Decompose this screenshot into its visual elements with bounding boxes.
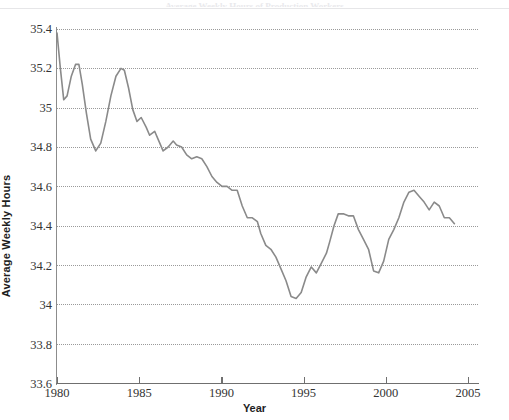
data-series-line bbox=[57, 29, 478, 383]
x-tick-mark bbox=[386, 377, 387, 384]
x-tick-label: 1985 bbox=[109, 386, 169, 401]
x-tick-mark bbox=[57, 377, 58, 384]
x-tick-mark bbox=[304, 377, 305, 384]
x-axis-label: Year bbox=[0, 402, 509, 414]
header-divider bbox=[0, 8, 509, 9]
y-tick-label: 35.2 bbox=[4, 62, 52, 74]
x-tick-label: 2005 bbox=[438, 386, 498, 401]
chart-figure: Average Weekly Hours of Production Worke… bbox=[0, 0, 509, 420]
x-tick-mark bbox=[221, 377, 222, 384]
x-tick-mark bbox=[468, 377, 469, 384]
x-tick-label: 1990 bbox=[191, 386, 251, 401]
y-axis-label: Average Weekly Hours bbox=[0, 146, 12, 326]
x-tick-label: 1980 bbox=[27, 386, 87, 401]
y-tick-label: 33.8 bbox=[4, 339, 52, 351]
chart-title: Average Weekly Hours of Production Worke… bbox=[0, 0, 509, 7]
y-tick-label: 35.4 bbox=[4, 23, 52, 35]
x-tick-mark bbox=[139, 377, 140, 384]
y-axis-label-holder: Average Weekly Hours bbox=[0, 110, 102, 130]
x-axis-line bbox=[56, 383, 479, 384]
x-tick-label: 1995 bbox=[274, 386, 334, 401]
plot-area bbox=[57, 29, 478, 383]
x-tick-label: 2000 bbox=[356, 386, 416, 401]
